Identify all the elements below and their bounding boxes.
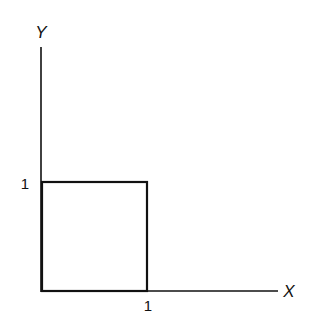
y-axis-label: Y [35, 23, 48, 42]
x-tick-label: 1 [144, 297, 152, 314]
unit-square [42, 182, 147, 291]
x-axis-label: X [282, 282, 295, 301]
unit-square-diagram: Y X 1 1 [0, 0, 312, 333]
y-tick-label: 1 [21, 175, 29, 192]
